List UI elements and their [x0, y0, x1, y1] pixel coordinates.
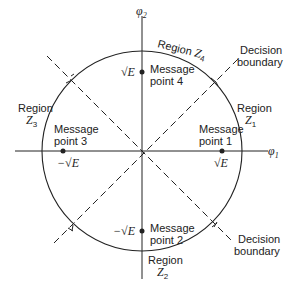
phi2-label: φ2	[136, 4, 147, 20]
sqrtE-label-horizontal-neg: −√E	[57, 156, 80, 170]
message-point-3-dot	[61, 149, 66, 154]
sqrtE-label-vertical-pos: √E	[121, 65, 136, 79]
message-point-4-label: Messagepoint 4	[150, 63, 195, 87]
region-z3-label: RegionZ3	[18, 102, 53, 129]
message-point-4-dot	[140, 70, 145, 75]
sqrtE-label-horizontal-pos: √E	[214, 156, 229, 170]
region-z2-label: RegionZ2	[148, 254, 183, 281]
message-point-2-label: Messagepoint 2	[150, 222, 195, 246]
message-point-1-dot	[220, 149, 225, 154]
message-point-1-label: Messagepoint 1	[199, 123, 244, 147]
message-point-2-dot	[140, 229, 145, 234]
sqrtE-label-vertical-neg: −√E	[113, 224, 136, 238]
decision-boundary-line-a	[47, 56, 231, 240]
signal-space-diagram: φ2 φ1 √E −√E √E −√E Messagepoint 1 Messa…	[0, 0, 293, 291]
phi1-label: φ1	[268, 144, 279, 160]
decision-boundary-label-bottom: Decisionboundary	[234, 233, 280, 257]
message-point-3-label: Messagepoint 3	[54, 123, 99, 147]
decision-boundary-label-top: Decisionboundary	[237, 44, 283, 68]
